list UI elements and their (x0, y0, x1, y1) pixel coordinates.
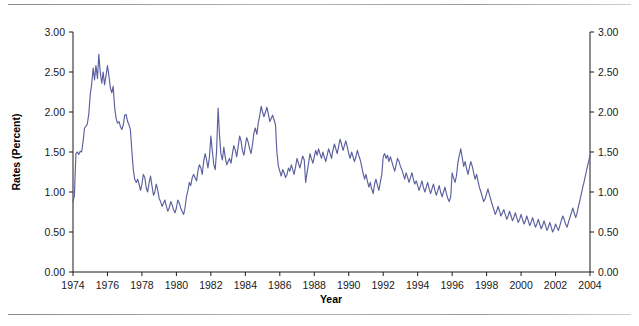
y-tick-label-left: 0.00 (45, 266, 66, 278)
line-chart-svg: 0.000.501.001.502.002.503.00 0.000.501.0… (0, 0, 639, 326)
y-tick-label-left: 2.50 (45, 66, 66, 78)
x-tick-label: 1996 (440, 279, 464, 291)
x-tick-label: 1990 (337, 279, 361, 291)
y-tick-label-right: 2.00 (598, 106, 619, 118)
chart-plot-area: 0.000.501.001.502.002.503.00 0.000.501.0… (0, 0, 639, 326)
y-tick-label-left: 1.50 (45, 146, 66, 158)
y-axis-right-ticks (590, 32, 594, 272)
y-tick-label-right: 0.50 (598, 226, 619, 238)
y-axis-left-ticks (69, 32, 73, 272)
x-tick-label: 2004 (578, 279, 602, 291)
y-tick-label-left: 2.00 (45, 106, 66, 118)
x-axis-ticks (73, 272, 590, 276)
y-axis-title: Rates (Percent) (10, 113, 22, 190)
x-tick-label: 2000 (509, 279, 533, 291)
y-tick-label-left: 3.00 (45, 26, 66, 38)
x-tick-label: 1974 (61, 279, 85, 291)
y-axis-left-tick-labels: 0.000.501.001.502.002.503.00 (45, 26, 66, 278)
x-tick-label: 1980 (165, 279, 189, 291)
y-tick-label-right: 1.00 (598, 186, 619, 198)
x-tick-label: 2002 (544, 279, 568, 291)
x-tick-label: 1992 (372, 279, 396, 291)
x-tick-label: 1976 (96, 279, 120, 291)
x-axis-title: Year (320, 293, 342, 305)
figure-container: 0.000.501.001.502.002.503.00 0.000.501.0… (0, 0, 639, 326)
x-axis-tick-labels: 1974197619781980198219841986198819901992… (61, 279, 602, 291)
x-tick-label: 1986 (268, 279, 292, 291)
y-tick-label-left: 1.00 (45, 186, 66, 198)
x-tick-label: 1984 (234, 279, 258, 291)
y-axis-right-tick-labels: 0.000.501.001.502.002.503.00 (598, 26, 619, 278)
y-tick-label-right: 3.00 (598, 26, 619, 38)
x-tick-label: 1988 (303, 279, 327, 291)
data-series-line (73, 54, 590, 232)
x-tick-label: 1982 (199, 279, 223, 291)
y-tick-label-right: 0.00 (598, 266, 619, 278)
x-tick-label: 1994 (406, 279, 430, 291)
y-tick-label-left: 0.50 (45, 226, 66, 238)
x-tick-label: 1998 (475, 279, 499, 291)
x-tick-label: 1978 (130, 279, 154, 291)
y-tick-label-right: 2.50 (598, 66, 619, 78)
y-tick-label-right: 1.50 (598, 146, 619, 158)
